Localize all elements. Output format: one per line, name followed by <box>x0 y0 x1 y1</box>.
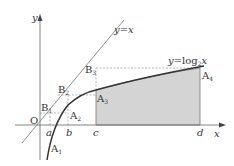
diagram: y x O y=x y=log2x a b c d A1 A2 A3 A4 B1… <box>0 0 234 166</box>
point-label-b3: B3 <box>85 64 96 76</box>
tick-b: b <box>66 127 72 138</box>
point-label-a2: A2 <box>69 110 81 122</box>
tick-a: a <box>46 127 52 138</box>
y-axis-arrow-icon <box>38 14 43 21</box>
point-label-a1: A1 <box>50 143 62 155</box>
y-axis-label: y <box>31 12 38 23</box>
point-label-b1: B1 <box>41 102 52 114</box>
x-axis-label: x <box>214 128 220 139</box>
x-axis-arrow-icon <box>219 123 226 128</box>
point-label-b2: B2 <box>58 84 69 96</box>
tick-c: c <box>93 127 99 138</box>
line-label: y=x <box>113 24 134 35</box>
point-label-a4: A4 <box>201 70 213 82</box>
tick-d: d <box>197 127 203 138</box>
log-curve-label: y=log2x <box>167 55 207 67</box>
origin-label: O <box>30 115 38 126</box>
